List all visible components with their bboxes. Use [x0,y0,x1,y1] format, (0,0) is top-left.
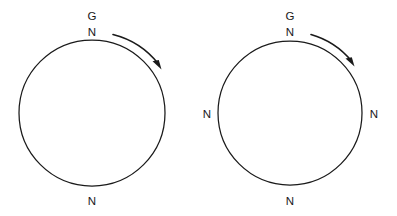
right-label-n-left: N [203,108,212,120]
right-label-g-top: G [285,10,294,22]
left-clockwise-rotation-arrow [113,35,162,70]
arrow-head-triangle [346,57,355,66]
left-circle-group: G N N [19,10,165,207]
arrow-arc-path [311,35,352,62]
left-label-g-top: G [87,10,96,22]
arrow-head-triangle [153,60,162,70]
two-circle-rotation-diagram: G N N G N N N N [0,0,397,216]
right-label-n-right: N [370,108,379,120]
right-circle-group: G N N N N [203,10,379,207]
arrow-arc-path [113,35,159,65]
right-label-n-bottom: N [286,195,295,207]
right-clockwise-rotation-arrow [311,35,355,67]
right-label-n-top: N [286,26,295,38]
right-circle-outline [218,41,362,185]
left-label-n-bottom: N [88,195,97,207]
diagram-canvas: G N N G N N N N [0,0,397,216]
left-label-n-top: N [88,26,97,38]
left-circle-outline [19,40,165,186]
